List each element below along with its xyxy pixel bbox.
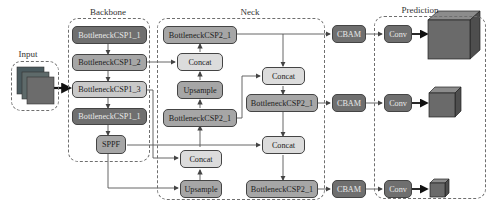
backbone-csp1-1-top: BottleneckCSP1_1 <box>72 26 147 44</box>
cbam-bottom: CBAM <box>332 180 366 198</box>
neck-upsample-bottom: Upsample <box>180 180 222 198</box>
neck-concat-top: Concat <box>177 53 223 71</box>
neck-csp2-1-middle: BottleneckCSP2_1 <box>163 109 237 127</box>
neck-csp2-1-right-middle: BottleneckCSP2_1 <box>246 94 318 112</box>
cbam-middle: CBAM <box>332 94 366 112</box>
backbone-label: Backbone <box>70 7 146 17</box>
backbone-sppf: SPPF <box>96 135 126 154</box>
neck-upsample-top: Upsample <box>177 81 223 99</box>
conv-middle: Conv <box>384 94 412 112</box>
conv-top: Conv <box>384 25 412 43</box>
neck-csp2-1-top: BottleneckCSP2_1 <box>163 26 237 44</box>
neck-label: Neck <box>220 7 280 17</box>
neck-concat-right-bottom: Concat <box>262 136 305 154</box>
prediction-label: Prediction <box>385 5 455 15</box>
backbone-csp1-1-bottom: BottleneckCSP1_1 <box>72 108 147 125</box>
backbone-csp1-3: BottleneckCSP1_3 <box>72 81 147 98</box>
cbam-top: CBAM <box>332 25 366 43</box>
conv-bottom: Conv <box>384 180 412 198</box>
neck-concat-bottom: Concat <box>180 150 222 168</box>
neck-concat-right-top: Concat <box>262 67 305 85</box>
neck-csp2-1-right-bottom: BottleneckCSP2_1 <box>246 180 318 198</box>
input-label: Input <box>8 49 48 59</box>
backbone-csp1-2: BottleneckCSP1_2 <box>72 54 147 71</box>
input-group <box>11 61 59 111</box>
